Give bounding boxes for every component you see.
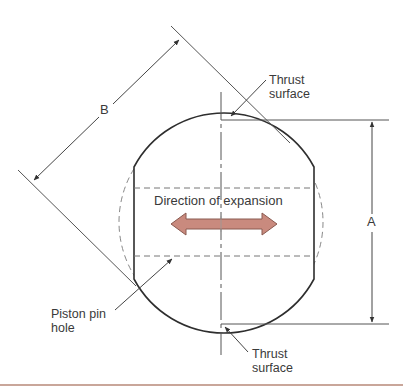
label-direction-of-expansion: Direction of expansion (154, 194, 283, 208)
dimension-label-a: A (366, 215, 377, 229)
dimension-label-b: B (99, 103, 110, 117)
leader-thrust-top (231, 80, 266, 116)
dim-b-line-lower (34, 117, 99, 180)
label-thrust-surface-bottom: Thrust surface (252, 347, 293, 375)
dim-b-line-upper (113, 40, 179, 104)
bottom-rule (0, 384, 403, 386)
label-piston-pin-hole: Piston pin hole (51, 307, 106, 335)
label-thrust-surface-top: Thrust surface (269, 73, 310, 101)
dim-b-ext-lower (18, 170, 136, 286)
